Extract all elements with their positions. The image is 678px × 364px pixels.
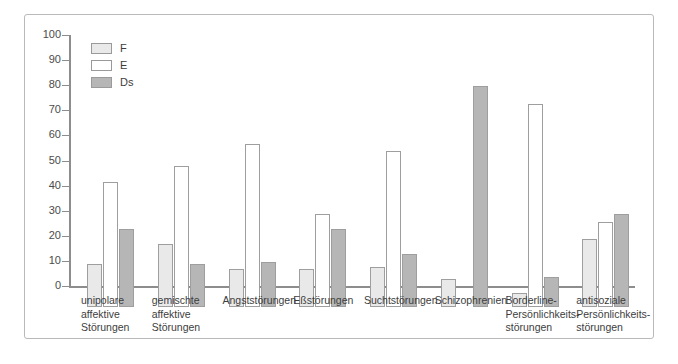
y-axis-tick-mark xyxy=(62,236,69,237)
y-axis-tick-mark xyxy=(62,261,69,262)
y-axis-tick-label: 90 xyxy=(21,54,61,65)
y-axis-tick-mark xyxy=(62,135,69,136)
y-axis-tick-mark xyxy=(62,35,69,36)
legend-label-f: F xyxy=(120,43,127,54)
y-axis-tick-label: 70 xyxy=(21,104,61,115)
y-axis-tick-label: 60 xyxy=(21,129,61,140)
bar-e-2 xyxy=(245,144,260,307)
y-axis-tick-label: 100 xyxy=(21,29,61,40)
y-axis-tick-mark xyxy=(62,286,69,287)
y-axis-tick-mark xyxy=(62,85,69,86)
bar-e-4 xyxy=(386,151,401,307)
bar-e-6 xyxy=(528,104,543,307)
y-axis-tick-label: 20 xyxy=(21,230,61,241)
y-axis-tick-label: 30 xyxy=(21,205,61,216)
y-axis-tick-mark xyxy=(62,211,69,212)
y-axis-tick-mark xyxy=(62,161,69,162)
legend-item-f: F xyxy=(91,41,133,55)
chart-figure: 0102030405060708090100 unipolare affekti… xyxy=(24,14,654,339)
legend-item-e: E xyxy=(91,58,133,72)
legend-item-ds: Ds xyxy=(91,75,133,89)
y-axis-tick-label: 0 xyxy=(21,280,61,291)
y-axis-tick-label: 40 xyxy=(21,180,61,191)
y-axis-tick-mark xyxy=(62,110,69,111)
legend-swatch-e xyxy=(91,60,112,71)
legend-label-ds: Ds xyxy=(120,77,133,88)
legend-swatch-f xyxy=(91,43,112,54)
bar-ds-5 xyxy=(473,86,488,307)
y-axis xyxy=(69,35,71,288)
y-axis-tick-mark xyxy=(62,186,69,187)
plot-area: 0102030405060708090100 unipolare affekti… xyxy=(69,35,635,307)
bar-e-1 xyxy=(174,166,189,307)
x-axis-label-7: antisoziale Persönlichkeits- störungen xyxy=(576,294,659,335)
y-axis-tick-label: 10 xyxy=(21,255,61,266)
legend-label-e: E xyxy=(120,60,127,71)
legend-swatch-ds xyxy=(91,77,112,88)
y-axis-tick-label: 50 xyxy=(21,155,61,166)
y-axis-tick-mark xyxy=(62,60,69,61)
chart-legend: FEDs xyxy=(91,41,133,92)
y-axis-tick-label: 80 xyxy=(21,79,61,90)
bar-e-0 xyxy=(103,182,118,308)
